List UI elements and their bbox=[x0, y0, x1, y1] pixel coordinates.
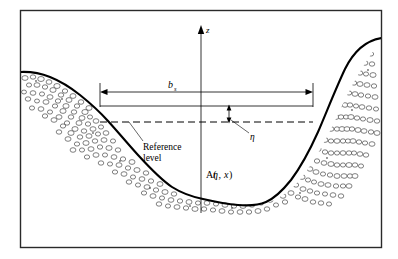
channel-cross-section-diagram: z b s η Reference level A( η , x ) bbox=[0, 0, 398, 259]
z-axis bbox=[198, 25, 204, 213]
reference-level-label-line1: Reference bbox=[143, 142, 182, 152]
width-arrow-head-left bbox=[100, 89, 108, 95]
eta-arrow-head-down bbox=[227, 118, 232, 124]
reference-level-label-line2: level bbox=[143, 153, 162, 163]
surface-width-symbol: b bbox=[168, 79, 173, 90]
flow-area-eta: η bbox=[213, 169, 218, 180]
surface-width-subscript: s bbox=[174, 85, 177, 92]
eta-dimension bbox=[227, 105, 232, 124]
flow-area-comma: , bbox=[219, 169, 222, 180]
z-axis-arrow-head bbox=[198, 25, 204, 34]
z-axis-label: z bbox=[205, 25, 210, 35]
width-arrow-head-right bbox=[306, 89, 314, 95]
eta-arrow-head-up bbox=[227, 105, 232, 111]
surface-width-dimension bbox=[100, 83, 313, 107]
reference-level-leader-line bbox=[129, 122, 143, 141]
diagram-body: z b s η Reference level A( η , x ) bbox=[20, 25, 382, 214]
flow-area-label: A( η , x ) bbox=[206, 169, 232, 181]
surface-width-label: b s bbox=[168, 79, 177, 92]
flow-area-suffix: ) bbox=[229, 169, 232, 181]
eta-label: η bbox=[250, 132, 255, 142]
reference-level-label: Reference level bbox=[143, 142, 182, 163]
figure-container: z b s η Reference level A( η , x ) bbox=[0, 0, 398, 259]
